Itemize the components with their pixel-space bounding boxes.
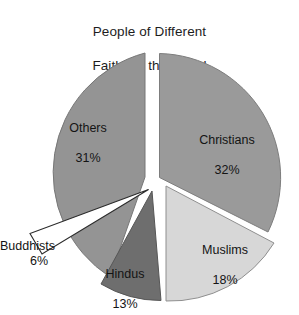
pie-chart: People of Different Faiths in the World …	[0, 0, 299, 315]
pie-svg	[0, 0, 299, 315]
